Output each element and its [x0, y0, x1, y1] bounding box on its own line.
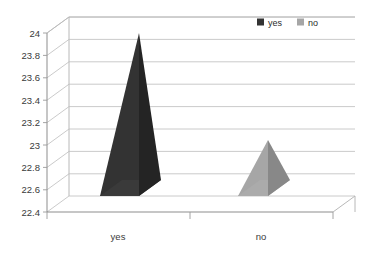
data-pyramid-no[interactable]: [238, 140, 290, 196]
data-pyramid-yes[interactable]: [100, 33, 161, 196]
chart-canvas: 24 23.8 23.6 23.4 23.2 23 22.8 22.6 22.4: [0, 0, 373, 256]
pyramid-side-face: [268, 140, 290, 196]
value-tick-label: 23.8: [22, 50, 41, 61]
value-axis-labels: 24 23.8 23.6 23.4 23.2 23 22.8 22.6 22.4: [22, 28, 41, 218]
legend-label-no: no: [308, 18, 318, 28]
chart-plot-area: [43, 17, 355, 219]
value-axis-ticks: [43, 33, 47, 212]
pyramid-side-face: [139, 33, 161, 196]
legend-swatch-yes: [257, 19, 264, 26]
value-tick-label: 23.4: [22, 95, 41, 106]
floor-surface: [47, 196, 355, 212]
legend-label-yes: yes: [268, 18, 283, 28]
gridlines: [47, 17, 355, 212]
pyramid-front-face: [100, 33, 139, 196]
value-tick-label: 22.4: [22, 207, 41, 218]
legend-swatch-no: [297, 19, 304, 26]
value-tick-label: 23.6: [22, 72, 41, 83]
value-tick-label: 22.6: [22, 184, 41, 195]
value-tick-label: 23.2: [22, 117, 41, 128]
category-axis-labels: yes no: [111, 231, 267, 242]
category-label: no: [256, 231, 267, 242]
value-tick-label: 22.8: [22, 162, 41, 173]
pyramid-chart: 24 23.8 23.6 23.4 23.2 23 22.8 22.6 22.4: [0, 0, 373, 256]
value-tick-label: 24: [29, 28, 40, 39]
chart-legend[interactable]: yes no: [257, 18, 318, 28]
category-label: yes: [111, 231, 126, 242]
value-tick-label: 23: [29, 140, 40, 151]
